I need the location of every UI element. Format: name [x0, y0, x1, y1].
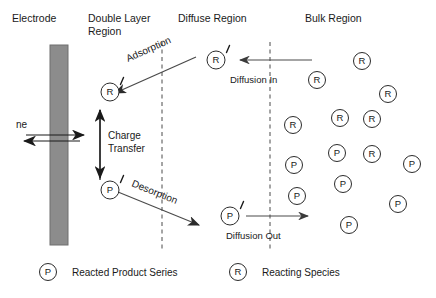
species-symbol: P — [340, 178, 346, 189]
species-symbol: P — [294, 190, 300, 201]
prime-mark — [121, 176, 124, 183]
species-symbol: P — [334, 147, 340, 158]
region-label-electrode: Electrode — [12, 12, 57, 24]
region-label-double-layer-line1: Double Layer — [88, 12, 151, 24]
desorption-label: Desorption — [130, 178, 179, 206]
bulk-species-p-11: P — [390, 196, 407, 213]
region-label-diffuse: Diffuse Region — [178, 12, 247, 24]
species-symbol: P — [291, 159, 297, 170]
bulk-species-p-5: P — [329, 145, 346, 162]
prime-mark — [227, 46, 230, 53]
bulk-species-r-13: R — [364, 111, 381, 128]
bulk-species-p-7: P — [286, 157, 303, 174]
diffusion-out-label: Diffusion Out — [226, 230, 281, 241]
electron-count-label: ne — [16, 119, 28, 130]
legend-label: Reacted Product Series — [72, 267, 178, 278]
species-symbol: R — [359, 55, 366, 66]
charge-transfer-label-line1: Charge — [108, 130, 141, 141]
bulk-species-r-3: R — [332, 110, 349, 127]
charge-transfer-group: Charge Transfer — [100, 110, 146, 180]
interface-species-r-0: R — [101, 78, 124, 102]
adsorption-label: Adsorption — [124, 34, 172, 63]
bulk-species-r-4: R — [285, 117, 302, 134]
electrode-interface-diagram: Electrode Double Layer Region Diffuse Re… — [0, 0, 436, 298]
species-symbol: R — [337, 112, 344, 123]
species-symbol: P — [395, 198, 401, 209]
legend-reactant: RReacting Species — [230, 264, 340, 281]
bulk-species-p-12: P — [341, 217, 358, 234]
species-symbol: R — [369, 113, 376, 124]
bulk-species-p-9: P — [335, 176, 352, 193]
bulk-species-r-6: R — [364, 146, 381, 163]
region-label-bulk: Bulk Region — [305, 12, 362, 24]
prime-mark — [241, 202, 244, 209]
species-symbol: R — [290, 119, 297, 130]
desorption-group: Desorption — [118, 178, 199, 225]
legend: PReacted Product SeriesRReacting Species — [40, 264, 340, 281]
charge-transfer-label-line2: Transfer — [108, 143, 146, 154]
region-header-labels: Electrode Double Layer Region Diffuse Re… — [12, 12, 362, 37]
bulk-species-r-1: R — [309, 72, 326, 89]
bulk-species-r-2: R — [380, 86, 397, 103]
species-symbol: P — [409, 158, 415, 169]
bulk-species-layer: RRRRRPRPPPPPPR — [285, 53, 421, 234]
diffusion-in-group: Diffusion In — [230, 60, 312, 85]
species-symbol: R — [107, 86, 114, 97]
interface-species-p-1: P — [101, 176, 124, 200]
bulk-species-p-10: P — [289, 188, 306, 205]
legend-label: Reacting Species — [262, 267, 340, 278]
bulk-species-p-8: P — [404, 156, 421, 173]
adsorption-group: Adsorption — [115, 34, 196, 93]
species-symbol: R — [385, 88, 392, 99]
species-symbol: R — [314, 74, 321, 85]
electrode-bar — [50, 45, 68, 245]
region-label-double-layer-line2: Region — [88, 25, 121, 37]
prime-mark — [121, 78, 124, 85]
species-symbol: P — [107, 184, 113, 195]
legend-symbol: R — [235, 266, 242, 277]
diffusion-in-label: Diffusion In — [230, 74, 277, 85]
diagram-canvas: Electrode Double Layer Region Diffuse Re… — [0, 0, 436, 298]
species-symbol: R — [213, 54, 220, 65]
interface-species-p-3: P — [221, 202, 244, 226]
species-symbol: R — [369, 148, 376, 159]
species-symbol: P — [227, 210, 233, 221]
legend-product: PReacted Product Series — [40, 264, 178, 281]
species-symbol: P — [346, 219, 352, 230]
interface-species-r-2: R — [207, 46, 230, 70]
bulk-species-r-0: R — [354, 53, 371, 70]
legend-symbol: P — [45, 266, 51, 277]
